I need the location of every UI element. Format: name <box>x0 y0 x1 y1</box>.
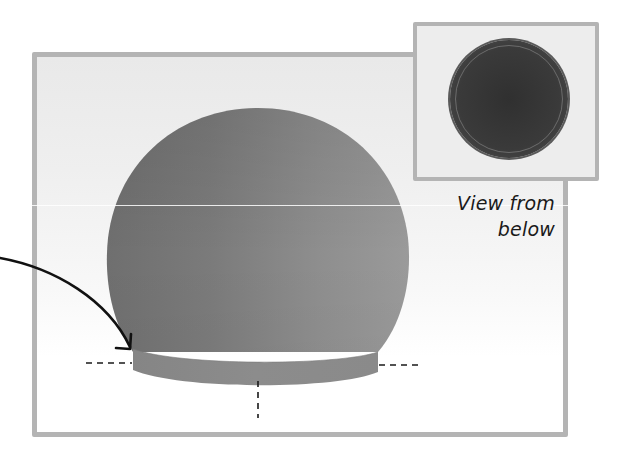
inset-caption: View from below <box>457 190 555 242</box>
caption-line-1: View from <box>457 190 555 216</box>
diagram-stage: View from below <box>0 0 621 459</box>
base-underside-circle <box>450 40 568 158</box>
caption-line-2: below <box>457 216 555 242</box>
dome <box>107 108 409 352</box>
circle-rim <box>455 45 563 153</box>
base-band <box>133 349 378 385</box>
inset-view-from-below <box>413 22 599 181</box>
